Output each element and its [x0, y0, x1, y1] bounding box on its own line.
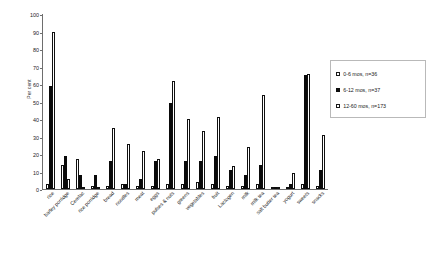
x-axis-tick-label: noodles [113, 190, 130, 207]
bar [67, 179, 70, 190]
bar [82, 187, 85, 189]
y-axis-tick-mark [40, 155, 42, 156]
bar-group [313, 14, 328, 189]
y-axis-tick-label: 50 [13, 100, 42, 106]
bar-group [133, 14, 148, 189]
bar-group [103, 14, 118, 189]
y-axis-tick-mark [40, 15, 42, 16]
bar [247, 147, 250, 189]
bar-group [253, 14, 268, 189]
bar-group [268, 14, 283, 189]
legend-label: 6-12 mos, n=37 [343, 87, 380, 93]
bar [112, 128, 115, 189]
chart-legend: 0-6 mos, n=366-12 mos, n=3712-60 mos, n=… [330, 60, 426, 118]
bar-group [58, 14, 73, 189]
plot-area: 0102030405060708090100 [42, 14, 328, 190]
bar-group [223, 14, 238, 189]
y-axis-tick-mark [40, 120, 42, 121]
bar-group [88, 14, 103, 189]
bar-chart: Per cent 0102030405060708090100 ricebarl… [0, 0, 432, 253]
x-axis-tick-label: rice [45, 190, 55, 200]
y-axis-tick-mark [40, 50, 42, 51]
bar [277, 187, 280, 189]
bar-group [43, 14, 58, 189]
bar [187, 119, 190, 189]
bar [157, 159, 160, 189]
x-axis-tick-label: fruit [210, 190, 220, 200]
legend-item: 12-60 mos, n=173 [336, 98, 421, 114]
x-axis-tick-label: sweets [294, 190, 309, 205]
y-axis-title: Per cent [26, 64, 32, 114]
legend-item: 0-6 mos, n=36 [336, 66, 421, 82]
y-axis-tick-mark [40, 33, 42, 34]
bar-group [163, 14, 178, 189]
y-axis-tick-label: 40 [13, 117, 42, 123]
legend-label: 12-60 mos, n=173 [343, 103, 386, 109]
x-axis-tick-label: snacks [309, 190, 324, 205]
bar-group [193, 14, 208, 189]
legend-label: 0-6 mos, n=36 [343, 71, 377, 77]
x-axis-labels: ricebarley porridgeCerelacrice porridgeb… [42, 190, 328, 252]
bar [172, 81, 175, 190]
legend-swatch-icon [336, 72, 340, 76]
bar-group [298, 14, 313, 189]
y-axis-tick-mark [40, 103, 42, 104]
bar [142, 151, 145, 190]
y-axis-tick-label: 0 [13, 187, 42, 193]
bar [202, 131, 205, 189]
x-axis-tick-label: eggs [148, 190, 160, 202]
legend-swatch-icon [336, 88, 340, 92]
bar [232, 166, 235, 189]
bar-group [178, 14, 193, 189]
y-axis-tick-label: 30 [13, 135, 42, 141]
y-axis-tick-mark [40, 173, 42, 174]
y-axis-tick-label: 90 [13, 30, 42, 36]
y-axis-tick-label: 80 [13, 47, 42, 53]
bar-group [148, 14, 163, 189]
y-axis-tick-label: 70 [13, 65, 42, 71]
bar [97, 187, 100, 189]
bar-group [238, 14, 253, 189]
y-axis-tick-label: 20 [13, 152, 42, 158]
legend-item: 6-12 mos, n=37 [336, 82, 421, 98]
x-axis-tick-label: meat [133, 190, 145, 202]
bar [52, 32, 55, 190]
bar-group [73, 14, 88, 189]
bar [322, 135, 325, 189]
bar [307, 74, 310, 190]
bar [217, 117, 220, 189]
legend-swatch-icon [336, 104, 340, 108]
bar [262, 95, 265, 190]
bar-group [208, 14, 223, 189]
bar-group [118, 14, 133, 189]
y-axis-tick-label: 60 [13, 82, 42, 88]
x-axis-tick-label: milk [239, 190, 250, 201]
y-axis-tick-label: 100 [13, 12, 42, 18]
bar [292, 173, 295, 189]
y-axis-tick-mark [40, 68, 42, 69]
y-axis-tick-mark [40, 85, 42, 86]
y-axis-tick-mark [40, 138, 42, 139]
bar-group [283, 14, 298, 189]
x-axis-tick-label: yogurt [281, 190, 295, 204]
y-axis-tick-label: 10 [13, 170, 42, 176]
bar [127, 144, 130, 190]
bar-groups [43, 14, 328, 189]
